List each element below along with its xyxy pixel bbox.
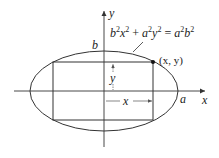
- x-axis-label: x: [201, 93, 208, 107]
- ellipse-rectangle-diagram: x y b a b2x2 + a2y2 = a2b2 (x, y) y x: [0, 0, 219, 158]
- point-marker: [151, 60, 155, 64]
- eq-equals: =: [161, 26, 174, 40]
- semi-minor-label-b: b: [92, 38, 98, 52]
- point-label: (x, y): [159, 54, 183, 67]
- equation-leader-line: [133, 42, 143, 52]
- y-axis-label: y: [108, 6, 115, 20]
- ellipse-equation: b2x2 + a2y2 = a2b2: [110, 25, 194, 40]
- width-dimension-label: x: [122, 94, 129, 108]
- height-dimension-label: y: [109, 71, 116, 85]
- eq-exp: 2: [190, 25, 194, 34]
- eq-plus: +: [129, 26, 142, 40]
- semi-major-label-a: a: [180, 92, 186, 106]
